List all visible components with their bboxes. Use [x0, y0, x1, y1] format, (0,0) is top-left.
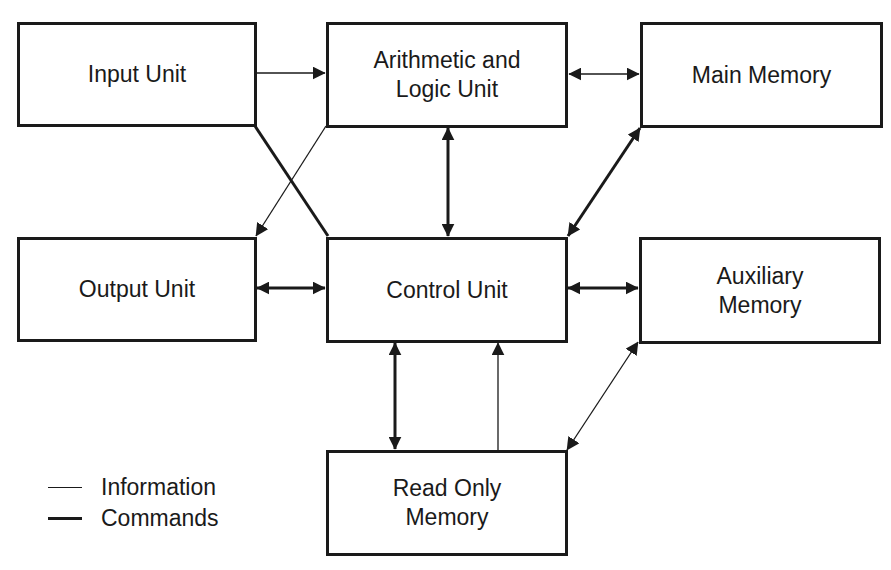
edge-auxiliary-rom: [567, 342, 638, 450]
thick-line-icon: [48, 517, 82, 520]
legend-item-commands: Commands: [48, 503, 219, 534]
alu-label: Arithmetic and Logic Unit: [373, 46, 520, 104]
legend-item-information: Information: [48, 472, 219, 503]
control-unit-box: Control Unit: [326, 237, 568, 343]
output-unit-box: Output Unit: [17, 237, 257, 342]
rom-label: Read Only Memory: [393, 474, 502, 532]
thin-line-icon: [48, 487, 82, 488]
input-unit-label: Input Unit: [88, 60, 186, 89]
alu-box: Arithmetic and Logic Unit: [326, 22, 568, 128]
output-unit-label: Output Unit: [79, 275, 195, 304]
input-unit-box: Input Unit: [17, 22, 257, 127]
legend: Information Commands: [48, 472, 219, 534]
edge-main-memory-control: [568, 128, 640, 236]
rom-box: Read Only Memory: [326, 450, 568, 556]
auxiliary-memory-box: Auxiliary Memory: [639, 237, 881, 344]
computer-organization-diagram: Input Unit Arithmetic and Logic Unit Mai…: [0, 0, 891, 570]
auxiliary-memory-label: Auxiliary Memory: [717, 262, 804, 320]
legend-information-label: Information: [101, 474, 216, 501]
main-memory-label: Main Memory: [692, 61, 831, 90]
legend-commands-label: Commands: [101, 505, 219, 532]
control-unit-label: Control Unit: [386, 276, 507, 305]
main-memory-box: Main Memory: [640, 22, 883, 128]
